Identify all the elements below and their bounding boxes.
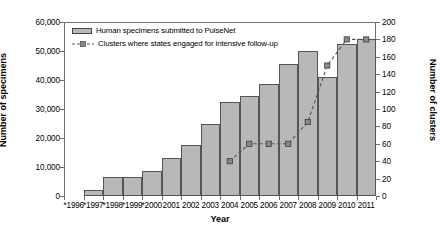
- y-left-tick: [60, 109, 64, 110]
- y-right-tick-label: 180: [382, 35, 396, 44]
- x-tick-label-1999: *1999: [122, 201, 142, 210]
- cluster-marker-2011: [364, 37, 369, 42]
- y-left-tick: [60, 22, 64, 23]
- y-right-tick-label: 200: [382, 18, 396, 27]
- cluster-marker-2005: [247, 141, 252, 146]
- x-tick: [103, 196, 104, 200]
- x-tick: [240, 196, 241, 200]
- y-right-tick: [376, 92, 380, 93]
- y-right-tick: [376, 144, 380, 145]
- x-tick: [220, 196, 221, 200]
- x-tick-label-2006: 2006: [260, 201, 277, 210]
- cluster-marker-2010: [344, 37, 349, 42]
- y-right-tick: [376, 126, 380, 127]
- cluster-marker-2006: [266, 141, 271, 146]
- y-left-tick: [60, 51, 64, 52]
- chart-container: Number of specimens Number of clusters Y…: [0, 0, 440, 232]
- y-right-tick-label: 160: [382, 52, 396, 61]
- x-tick-label-1996: *1996: [64, 201, 84, 210]
- y-right-tick: [376, 74, 380, 75]
- x-tick: [298, 196, 299, 200]
- x-tick-label-2010: 2010: [338, 201, 355, 210]
- x-tick-label-2001: 2001: [163, 201, 180, 210]
- x-tick-label-2007: 2007: [280, 201, 297, 210]
- x-tick: [201, 196, 202, 200]
- x-tick: [279, 196, 280, 200]
- x-tick-label-1998: *1998: [103, 201, 123, 210]
- y-left-tick-label: 60,000: [0, 18, 60, 27]
- y-right-tick: [376, 161, 380, 162]
- y-left-tick-label: 10,000: [0, 163, 60, 172]
- legend-label-clusters: Clusters where states engaged for intens…: [98, 39, 278, 48]
- x-tick: [357, 196, 358, 200]
- x-axis-title: Year: [0, 214, 440, 224]
- x-tick-label-2011: 2011: [358, 201, 375, 210]
- y-right-tick: [376, 39, 380, 40]
- y-left-tick-label: 20,000: [0, 134, 60, 143]
- x-tick: [142, 196, 143, 200]
- y-right-tick-label: 60: [382, 139, 391, 148]
- y-right-tick-label: 80: [382, 122, 391, 131]
- x-tick: [181, 196, 182, 200]
- y-axis-right-title: Number of clusters: [428, 59, 438, 141]
- cluster-marker-2008: [305, 119, 310, 124]
- y-right-tick: [376, 22, 380, 23]
- bar-swatch-icon: [72, 28, 92, 34]
- y-left-tick-label: 40,000: [0, 76, 60, 85]
- legend-item-clusters: Clusters where states engaged for intens…: [72, 37, 278, 50]
- x-tick: [259, 196, 260, 200]
- x-tick-label-1997: *1997: [83, 201, 103, 210]
- dashed-line-swatch-icon: [72, 40, 94, 48]
- x-tick: [84, 196, 85, 200]
- y-left-tick-label: 0: [0, 192, 60, 201]
- y-right-tick: [376, 57, 380, 58]
- x-tick: [337, 196, 338, 200]
- x-tick: [318, 196, 319, 200]
- y-left-tick: [60, 167, 64, 168]
- y-right-tick-label: 40: [382, 157, 391, 166]
- y-right-tick-label: 100: [382, 105, 396, 114]
- y-right-tick-label: 120: [382, 87, 396, 96]
- y-left-tick: [60, 138, 64, 139]
- x-tick-label-2008: 2008: [299, 201, 316, 210]
- x-tick-label-2004: 2004: [221, 201, 238, 210]
- y-left-tick: [60, 80, 64, 81]
- x-tick-label-2003: 2003: [202, 201, 219, 210]
- x-tick: [162, 196, 163, 200]
- x-tick: [376, 196, 377, 200]
- legend-item-specimens: Human specimens submitted to PulseNet: [72, 24, 278, 37]
- y-right-tick-label: 20: [382, 174, 391, 183]
- x-tick-label-2005: 2005: [241, 201, 258, 210]
- cluster-marker-2007: [286, 141, 291, 146]
- legend: Human specimens submitted to PulseNet Cl…: [72, 24, 278, 50]
- cluster-marker-2009: [325, 63, 330, 68]
- legend-label-specimens: Human specimens submitted to PulseNet: [96, 26, 235, 35]
- x-tick-label-2002: 2002: [182, 201, 199, 210]
- y-left-tick-label: 30,000: [0, 105, 60, 114]
- y-right-tick-label: 140: [382, 70, 396, 79]
- x-tick: [123, 196, 124, 200]
- x-tick-label-2009: 2009: [319, 201, 336, 210]
- cluster-marker-2004: [227, 159, 232, 164]
- y-left-tick-label: 50,000: [0, 47, 60, 56]
- y-right-tick-label: 0: [382, 192, 387, 201]
- y-right-tick: [376, 109, 380, 110]
- x-tick: [64, 196, 65, 200]
- x-tick-label-2000: *2000: [142, 201, 162, 210]
- y-right-tick: [376, 179, 380, 180]
